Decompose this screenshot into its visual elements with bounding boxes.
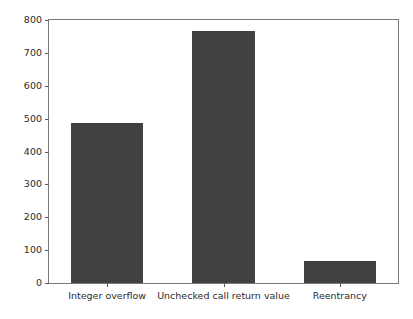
bar [192,31,255,283]
figure-canvas: 0100200300400500600700800 Integer overfl… [0,0,413,319]
x-axis-tick-label: Reentrancy [313,283,367,301]
y-axis-tick-label: 400 [24,147,49,157]
x-axis-tick-label: Unchecked call return value [157,283,290,301]
plot-axes: 0100200300400500600700800 Integer overfl… [48,19,399,284]
x-axis-tick-label: Integer overflow [68,283,146,301]
y-axis-tick-label: 300 [24,180,49,190]
bar-series-layer [49,20,398,283]
y-axis-tick-label: 100 [24,245,49,255]
y-axis-tick-label: 800 [24,15,49,25]
y-axis-tick-label: 500 [24,114,49,124]
bar [71,123,143,283]
y-axis-tick-label: 600 [24,81,49,91]
y-axis-tick-label: 200 [24,213,49,223]
bar [304,261,376,283]
y-axis-tick-label: 700 [24,48,49,58]
y-axis-tick-label: 0 [36,278,49,288]
